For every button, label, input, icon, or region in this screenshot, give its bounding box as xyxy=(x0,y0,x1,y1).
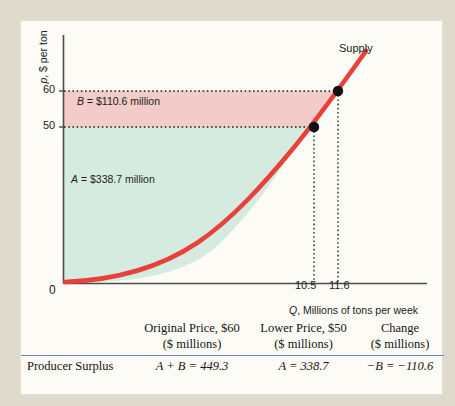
region-a-label: A = $338.7 million xyxy=(71,173,155,185)
header-original-price-line1: Original Price, $60 xyxy=(133,321,251,337)
table-row: Producer Surplus A + B = 449.3 A = 338.7… xyxy=(21,356,444,374)
cell-change-value: −B = −110.6 xyxy=(356,356,444,374)
supply-curve-label: Supply xyxy=(339,42,373,54)
cell-lower-price-value: A = 338.7 xyxy=(251,356,356,374)
region-b-label: B = $110.6 million xyxy=(77,95,160,107)
region-a-label-text: = $338.7 million xyxy=(78,173,155,185)
summary-table-area: Original Price, $60 ($ millions) Lower P… xyxy=(21,321,444,396)
row-label-producer-surplus: Producer Surplus xyxy=(21,356,133,374)
header-change-line2: ($ millions) xyxy=(356,337,444,351)
header-original-price-line2: ($ millions) xyxy=(133,337,251,351)
table-header-original-price: Original Price, $60 ($ millions) xyxy=(133,321,251,356)
cell-original-price-value: A + B = 449.3 xyxy=(133,356,251,374)
y-tick-label-50: 50 xyxy=(43,119,55,131)
chart-plot-area: p, $ per ton Q, Millions of tons per wee… xyxy=(21,21,444,321)
header-change-line1: Change xyxy=(356,321,444,337)
supply-curve-chart xyxy=(21,21,444,321)
x-axis-label-text: , Millions of tons per week xyxy=(297,304,418,316)
x-tick-label-11-6: 11.6 xyxy=(329,279,350,291)
header-lower-price-line2: ($ millions) xyxy=(251,337,356,351)
region-a-fill xyxy=(63,127,314,283)
table-header-change: Change ($ millions) xyxy=(356,321,444,356)
y-tick-label-60: 60 xyxy=(43,83,55,95)
x-tick-label-10-5: 10.5 xyxy=(295,279,316,291)
marker-original-price-point xyxy=(333,86,343,96)
header-lower-price-line1: Lower Price, $50 xyxy=(251,321,356,337)
producer-surplus-table: Original Price, $60 ($ millions) Lower P… xyxy=(21,321,444,373)
table-header-row: Original Price, $60 ($ millions) Lower P… xyxy=(21,321,444,356)
y-axis-label-text: , $ per ton xyxy=(37,30,49,77)
origin-label: 0 xyxy=(49,283,56,297)
table-header-lower-price: Lower Price, $50 ($ millions) xyxy=(251,321,356,356)
figure-panel: p, $ per ton Q, Millions of tons per wee… xyxy=(20,20,443,395)
region-b-label-text: = $110.6 million xyxy=(84,95,160,107)
marker-lower-price-point xyxy=(309,122,319,132)
table-corner-cell xyxy=(21,321,133,356)
x-axis-label: Q, Millions of tons per week xyxy=(289,304,418,316)
